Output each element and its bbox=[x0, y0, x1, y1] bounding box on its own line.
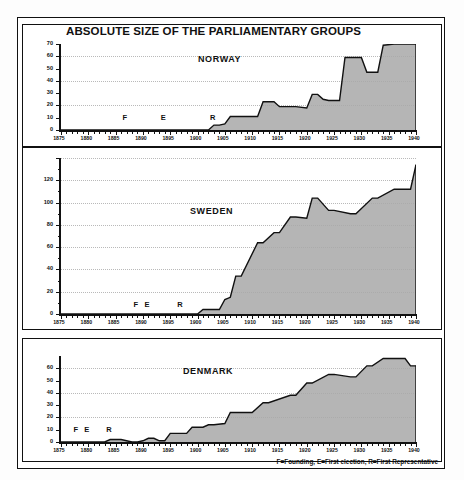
event-marker-e: E bbox=[161, 113, 166, 122]
x-tick-minor bbox=[367, 130, 368, 134]
x-tick-minor bbox=[274, 442, 275, 446]
x-tick-label: 1925 bbox=[319, 136, 345, 141]
panel-norway: 0102030405060701875188018851890189519001… bbox=[18, 22, 446, 150]
x-tick-minor bbox=[105, 314, 106, 318]
x-tick-minor bbox=[219, 442, 220, 446]
x-tick-minor bbox=[312, 442, 313, 446]
x-tick-minor bbox=[72, 130, 73, 134]
x-tick-minor bbox=[411, 314, 412, 318]
x-tick-minor bbox=[400, 314, 401, 318]
x-tick-minor bbox=[203, 130, 204, 134]
x-tick-minor bbox=[187, 130, 188, 134]
x-tick-minor bbox=[372, 130, 373, 134]
x-tick-label: 1925 bbox=[319, 448, 345, 453]
x-tick-label: 1920 bbox=[292, 448, 318, 453]
x-tick-minor bbox=[269, 314, 270, 318]
x-tick-minor bbox=[66, 130, 67, 134]
x-tick-label: 1935 bbox=[374, 136, 400, 141]
event-marker-r: R bbox=[210, 113, 215, 122]
x-tick-label: 1935 bbox=[374, 448, 400, 453]
x-tick-label: 1880 bbox=[73, 320, 99, 325]
x-tick-minor bbox=[405, 130, 406, 134]
x-tick-minor bbox=[400, 442, 401, 446]
x-tick-minor bbox=[274, 314, 275, 318]
area-fill bbox=[61, 165, 416, 314]
x-tick-label: 1885 bbox=[101, 136, 127, 141]
x-tick-label: 1910 bbox=[237, 136, 263, 141]
x-tick-minor bbox=[176, 130, 177, 134]
x-tick-minor bbox=[66, 442, 67, 446]
x-tick-minor bbox=[230, 130, 231, 134]
plot-area-denmark bbox=[59, 356, 416, 444]
panel-label-norway: NORWAY bbox=[198, 54, 241, 64]
series-denmark bbox=[61, 356, 416, 442]
x-tick-minor bbox=[99, 314, 100, 318]
x-tick-minor bbox=[159, 130, 160, 134]
y-tick-label: 40 bbox=[31, 390, 53, 396]
x-tick-minor bbox=[192, 314, 193, 318]
x-tick-minor bbox=[187, 442, 188, 446]
x-tick-minor bbox=[83, 314, 84, 318]
x-tick-label: 1925 bbox=[319, 320, 345, 325]
y-tick-label: 60 bbox=[31, 365, 53, 371]
x-tick-minor bbox=[66, 314, 67, 318]
x-tick-label: 1885 bbox=[101, 320, 127, 325]
x-tick-label: 1930 bbox=[346, 320, 372, 325]
x-tick-minor bbox=[356, 442, 357, 446]
x-tick-minor bbox=[192, 442, 193, 446]
x-tick-minor bbox=[203, 442, 204, 446]
x-tick-minor bbox=[214, 442, 215, 446]
x-tick-minor bbox=[400, 130, 401, 134]
y-tick-label: 120 bbox=[31, 177, 53, 183]
x-tick-minor bbox=[290, 442, 291, 446]
x-tick-minor bbox=[208, 130, 209, 134]
x-tick-minor bbox=[181, 130, 182, 134]
x-tick-minor bbox=[405, 442, 406, 446]
event-marker-f: F bbox=[133, 300, 138, 309]
x-tick-label: 1875 bbox=[46, 136, 72, 141]
x-tick-label: 1940 bbox=[401, 320, 427, 325]
x-tick-minor bbox=[154, 130, 155, 134]
x-tick-minor bbox=[99, 130, 100, 134]
y-tick-label: 10 bbox=[31, 427, 53, 433]
event-marker-r: R bbox=[106, 425, 111, 434]
y-tick-label: 10 bbox=[31, 115, 53, 121]
x-tick-minor bbox=[148, 130, 149, 134]
panel-label-sweden: SWEDEN bbox=[190, 206, 233, 216]
x-tick-minor bbox=[372, 314, 373, 318]
x-tick-minor bbox=[323, 442, 324, 446]
x-tick-label: 1890 bbox=[128, 448, 154, 453]
x-tick-minor bbox=[296, 442, 297, 446]
x-tick-minor bbox=[340, 442, 341, 446]
y-tick-label: 100 bbox=[31, 200, 53, 206]
x-tick-minor bbox=[214, 314, 215, 318]
y-tick-label: 80 bbox=[31, 222, 53, 228]
x-tick-minor bbox=[285, 130, 286, 134]
x-tick-minor bbox=[394, 442, 395, 446]
y-tick-label: 20 bbox=[31, 414, 53, 420]
x-tick-minor bbox=[77, 314, 78, 318]
x-tick-minor bbox=[121, 314, 122, 318]
x-tick-minor bbox=[318, 130, 319, 134]
x-tick-minor bbox=[345, 130, 346, 134]
x-tick-minor bbox=[329, 130, 330, 134]
x-tick-minor bbox=[219, 130, 220, 134]
x-tick-minor bbox=[214, 130, 215, 134]
x-tick-minor bbox=[318, 314, 319, 318]
x-tick-minor bbox=[345, 442, 346, 446]
x-tick-minor bbox=[165, 314, 166, 318]
x-tick-minor bbox=[165, 442, 166, 446]
x-tick-minor bbox=[383, 442, 384, 446]
y-tick-label: 0 bbox=[31, 311, 53, 317]
x-tick-minor bbox=[132, 130, 133, 134]
x-tick-label: 1915 bbox=[264, 136, 290, 141]
y-tick-label: 0 bbox=[31, 127, 53, 133]
series-sweden bbox=[61, 158, 416, 314]
event-marker-e: E bbox=[144, 300, 149, 309]
x-tick-minor bbox=[121, 130, 122, 134]
x-tick-label: 1895 bbox=[155, 136, 181, 141]
x-tick-label: 1935 bbox=[374, 320, 400, 325]
y-tick-label: 40 bbox=[31, 266, 53, 272]
x-tick-minor bbox=[263, 130, 264, 134]
y-tick-label: 30 bbox=[31, 90, 53, 96]
